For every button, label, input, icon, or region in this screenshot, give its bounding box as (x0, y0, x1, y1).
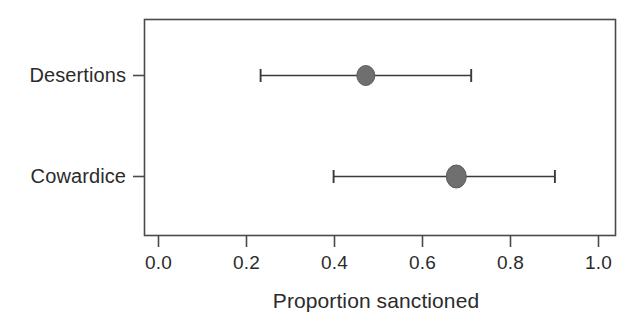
x-tick-label-1-0: 1.0 (568, 253, 629, 272)
x-tick-label-0-8: 0.8 (480, 253, 541, 272)
plot-frame (145, 20, 616, 236)
proportion-sanctioned-chart: Desertions Cowardice 0.0 0.2 0.4 0.6 0.8… (0, 0, 635, 323)
x-tick-label-0-2: 0.2 (216, 253, 277, 272)
y-axis-ticks (133, 76, 145, 177)
x-tick-label-0-6: 0.6 (392, 253, 453, 272)
category-label-desertions: Desertions (0, 65, 126, 85)
series-desertions (261, 66, 472, 86)
x-tick-label-0-4: 0.4 (304, 253, 365, 272)
x-tick-label-0-0: 0.0 (128, 253, 189, 272)
plot-canvas (0, 0, 635, 323)
data-point-cowardice (446, 165, 466, 188)
x-axis-title: Proportion sanctioned (176, 290, 576, 311)
category-label-cowardice: Cowardice (0, 166, 126, 186)
x-axis-ticks (159, 236, 599, 248)
data-point-desertions (357, 66, 375, 86)
series-cowardice (334, 165, 555, 188)
